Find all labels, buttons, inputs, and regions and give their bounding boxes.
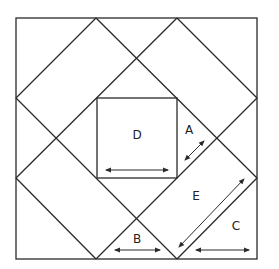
arrow-e xyxy=(179,179,244,247)
label-c: C xyxy=(232,219,240,233)
quilt-block-diagram: D A E B C xyxy=(0,0,279,269)
corner-line-bottom-left xyxy=(16,178,96,259)
label-a: A xyxy=(185,123,194,137)
arrow-a xyxy=(185,141,204,160)
label-b: B xyxy=(133,232,141,246)
corner-line-top-left xyxy=(16,18,96,98)
label-d: D xyxy=(132,128,141,142)
corner-line-top-right xyxy=(177,18,257,98)
label-e: E xyxy=(192,189,200,203)
corner-line-bottom-right xyxy=(177,178,257,259)
